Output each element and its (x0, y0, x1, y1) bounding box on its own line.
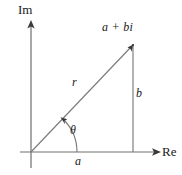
complex-point-marker (132, 44, 134, 46)
complex-point-label: a + bi (102, 21, 133, 33)
angle-arc-arrowhead (61, 117, 68, 124)
real-axis-label: Re (162, 145, 176, 158)
argand-diagram-canvas (0, 0, 182, 175)
argand-diagram: Im Re a + bi r b a θ (0, 0, 182, 175)
angle-label: θ (70, 124, 76, 136)
imaginary-axis-label: Im (18, 3, 32, 16)
real-part-label: a (75, 155, 81, 167)
modulus-label: r (72, 76, 77, 88)
modulus-vector-line (31, 47, 131, 152)
imaginary-part-label: b (136, 87, 142, 99)
